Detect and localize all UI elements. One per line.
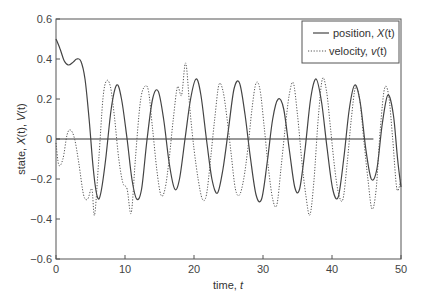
y-tick-label: 0.2 bbox=[37, 93, 52, 105]
y-tick-label: −0.4 bbox=[30, 213, 52, 225]
x-tick-label: 30 bbox=[257, 263, 269, 275]
y-tick-label: 0.4 bbox=[37, 53, 52, 65]
x-tick-label: 20 bbox=[188, 263, 200, 275]
x-tick-label: 50 bbox=[395, 263, 407, 275]
x-tick-label: 0 bbox=[53, 263, 59, 275]
y-tick-label: −0.2 bbox=[30, 173, 52, 185]
x-tick-label: 10 bbox=[119, 263, 131, 275]
legend: position, X(t) velocity, v(t) bbox=[302, 21, 399, 63]
line-chart: 01020304050−0.6−0.4−0.200.20.40.6 positi… bbox=[0, 0, 421, 299]
y-tick-label: −0.6 bbox=[30, 253, 52, 265]
x-axis-label: time, t bbox=[213, 279, 244, 291]
y-tick-label: 0.6 bbox=[37, 13, 52, 25]
legend-item-position: position, X(t) bbox=[333, 27, 395, 39]
y-axis-label: state, X(t), V(t) bbox=[15, 103, 27, 175]
legend-item-velocity: velocity, v(t) bbox=[329, 45, 387, 57]
x-tick-label: 40 bbox=[326, 263, 338, 275]
y-tick-label: 0 bbox=[46, 133, 52, 145]
